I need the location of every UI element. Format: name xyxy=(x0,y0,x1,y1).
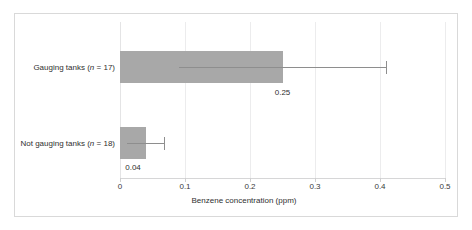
benzene-concentration-bar-chart: Gauging tanks (n = 17) 0.25 Not gauging … xyxy=(0,0,472,230)
gridline-0.1 xyxy=(185,22,186,178)
x-tick-label-0.4: 0.4 xyxy=(374,182,385,191)
x-tick-label-0.5: 0.5 xyxy=(439,182,450,191)
category-label-prefix: Not gauging tanks ( xyxy=(20,139,89,148)
errorbar-line-not-gauging-tanks xyxy=(127,143,165,144)
category-label-not-gauging-tanks: Not gauging tanks (n = 18) xyxy=(0,139,115,148)
value-label-not-gauging-tanks: 0.04 xyxy=(125,163,141,172)
errorbar-cap-high-not-gauging-tanks xyxy=(164,137,165,150)
category-label-gauging-tanks: Gauging tanks (n = 17) xyxy=(0,63,115,72)
gridline-0.2 xyxy=(250,22,251,178)
x-axis-line xyxy=(120,178,446,179)
x-axis-title-text: Benzene concentration (ppm) xyxy=(192,196,297,205)
x-tick-label-0.3: 0.3 xyxy=(309,182,320,191)
plot-area xyxy=(120,22,445,178)
gridline-0.3 xyxy=(315,22,316,178)
value-label-gauging-tanks: 0.25 xyxy=(275,88,291,97)
errorbar-line-gauging-tanks xyxy=(179,67,387,68)
category-label-suffix: = 17) xyxy=(94,63,115,72)
gridline-0.5 xyxy=(445,22,446,178)
errorbar-cap-high-gauging-tanks xyxy=(386,61,387,74)
x-tick-label-0.1: 0.1 xyxy=(179,182,190,191)
gridline-0.4 xyxy=(380,22,381,178)
x-axis-title: Benzene concentration (ppm) xyxy=(0,196,472,205)
x-tick-label-0.2: 0.2 xyxy=(244,182,255,191)
category-label-prefix: Gauging tanks ( xyxy=(33,63,89,72)
x-tick-label-0: 0 xyxy=(118,182,122,191)
category-label-suffix: = 18) xyxy=(94,139,115,148)
